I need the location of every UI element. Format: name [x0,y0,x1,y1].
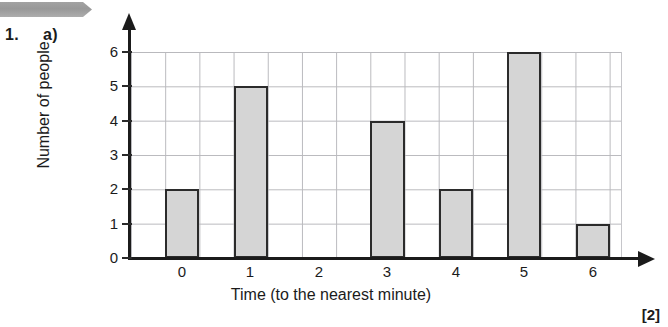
y-tick-label-1: 1 [100,216,118,231]
y-tick-label-5: 5 [100,78,118,93]
y-tick-label-0: 0 [100,250,118,265]
y-tick-5 [122,85,132,87]
y-tick-3 [122,154,132,156]
y-tick-6 [122,51,132,53]
plot-area [131,52,622,258]
y-tick-0 [122,257,132,259]
x-tick-label-3: 3 [370,264,404,280]
y-tick-2 [122,188,132,190]
y-axis-title: Number of people [35,15,53,195]
x-tick-label-5: 5 [507,264,541,280]
bar-category-3 [370,121,404,258]
x-axis-title: Time (to the nearest minute) [131,286,531,304]
y-tick-label-group: 6 5 4 3 2 1 0 [100,0,118,327]
y-tick-4 [122,120,132,122]
grid-top-edge [131,52,622,53]
x-tick-label-6: 6 [576,264,610,280]
y-tick-label-4: 4 [100,113,118,128]
bar-category-5 [507,52,541,258]
y-tick-1 [122,223,132,225]
exam-question-page: 1. a) 6 5 4 [0,0,668,327]
bar-chart: 6 5 4 3 2 1 0 0 1 2 3 4 5 6 Number of pe… [0,0,668,327]
y-tick-label-3: 3 [100,147,118,162]
grid-right-edge [621,52,622,258]
x-tick-label-2: 2 [302,264,336,280]
y-tick-label-2: 2 [100,181,118,196]
x-tick-label-0: 0 [165,264,199,280]
x-tick-label-1: 1 [233,264,267,280]
y-axis-arrow [122,13,136,30]
bar-category-4 [439,189,473,258]
bar-category-0 [165,189,199,258]
marks-allocation: [2] [642,306,660,323]
bar-category-6 [576,224,610,258]
bar-category-1 [234,86,268,258]
y-tick-label-6: 6 [100,44,118,59]
x-tick-label-4: 4 [439,264,473,280]
x-axis-arrow [638,251,655,267]
x-axis-line [128,257,641,260]
